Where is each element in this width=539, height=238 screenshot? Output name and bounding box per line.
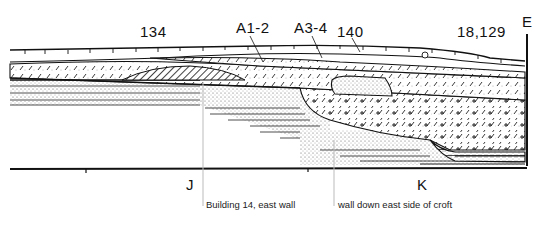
context-label-134: 134 — [140, 23, 167, 40]
stippled-lens — [331, 76, 392, 96]
annotation-building-14: Building 14, east wall — [206, 199, 295, 210]
baseline — [10, 168, 527, 169]
context-label-a3-4: A3-4 — [294, 19, 328, 36]
annotation-croft-wall: wall down east side of croft — [337, 199, 452, 210]
grid-point-j: J — [186, 176, 194, 193]
context-label-18-129: 18,129 — [457, 23, 506, 40]
section-diagram: 134 A1-2 A3-4 140 18,129 E J K Building … — [0, 0, 539, 238]
grid-point-k: K — [417, 176, 428, 193]
context-label-a1-2: A1-2 — [236, 19, 270, 36]
context-label-140: 140 — [337, 23, 364, 40]
section-end-label: E — [522, 13, 533, 30]
